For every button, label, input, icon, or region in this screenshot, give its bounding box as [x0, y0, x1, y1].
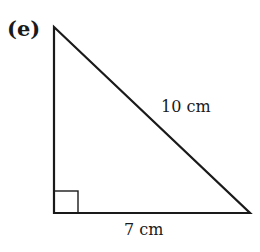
right-angle-marker: [54, 191, 78, 213]
base-label: 7 cm: [124, 220, 163, 239]
hypotenuse-label: 10 cm: [161, 97, 211, 116]
part-label: (e): [7, 16, 40, 41]
triangle: [54, 27, 250, 213]
